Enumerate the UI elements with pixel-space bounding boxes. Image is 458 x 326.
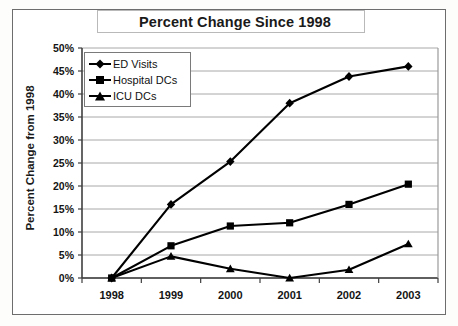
legend-item-ed-visits: ED Visits (88, 56, 190, 72)
legend-item-hospital-dcs: Hospital DCs (88, 72, 190, 88)
data-point-marker (167, 252, 176, 260)
plot-canvas: 0%5%10%15%20%25%30%35%40%45%50% 19981999… (0, 0, 458, 326)
legend-item-icu-dcs: ICU DCs (88, 88, 190, 104)
data-point-marker (167, 242, 174, 249)
x-tick-label: 2000 (218, 289, 242, 301)
y-tick-label: 35% (53, 111, 75, 123)
data-point-marker (405, 181, 412, 188)
y-tick-label: 40% (53, 88, 75, 100)
data-point-marker (404, 62, 412, 71)
legend-label-ed-visits: ED Visits (113, 58, 157, 70)
x-tick-label: 1999 (159, 289, 183, 301)
data-point-marker (345, 72, 353, 81)
series-line (112, 244, 409, 278)
x-tick-label: 1998 (99, 289, 123, 301)
y-tick-label: 25% (53, 157, 75, 169)
triangle-marker-icon (88, 89, 112, 103)
legend-label-hospital-dcs: Hospital DCs (113, 74, 177, 86)
y-tick-label: 50% (53, 42, 75, 54)
y-tick-label: 10% (53, 226, 75, 238)
y-tick-label: 30% (53, 134, 75, 146)
legend-label-icu-dcs: ICU DCs (113, 90, 156, 102)
chart-legend: ED Visits Hospital DCs ICU DCs (84, 52, 191, 107)
y-tick-label: 0% (59, 272, 75, 284)
diamond-marker-icon (88, 57, 112, 71)
chart-figure: Percent Change Since 1998 Percent Change… (0, 0, 458, 326)
y-tick-label: 5% (59, 249, 75, 261)
data-point-marker (404, 240, 413, 248)
y-tick-labels: 0%5%10%15%20%25%30%35%40%45%50% (53, 42, 75, 284)
data-point-marker (227, 222, 234, 229)
data-point-marker (286, 219, 293, 226)
data-point-marker (345, 201, 352, 208)
y-tick-label: 20% (53, 180, 75, 192)
y-tick-label: 45% (53, 65, 75, 77)
square-marker-icon (88, 73, 112, 87)
x-tick-labels: 199819992000200120022003 (99, 289, 420, 301)
x-tick-label: 2003 (396, 289, 420, 301)
y-tick-label: 15% (53, 203, 75, 215)
x-tick-label: 2002 (337, 289, 361, 301)
x-tick-label: 2001 (277, 289, 301, 301)
